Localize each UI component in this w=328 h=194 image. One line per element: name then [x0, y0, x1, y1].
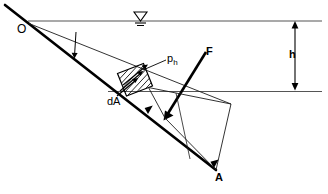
diagram-canvas [0, 0, 328, 194]
pressure-prism-outline [149, 88, 232, 171]
prism-arrowhead-upper [145, 105, 153, 114]
label-force: F [206, 46, 213, 57]
depth-arrowhead-top [292, 21, 299, 29]
pressure-arrow-near-origin [72, 32, 78, 59]
hydrostatic-pressure-diagram: O ph dA F A h [0, 0, 328, 194]
label-pressure: ph [167, 53, 178, 67]
label-origin: O [17, 23, 26, 35]
water-level-symbol-icon [134, 12, 147, 26]
prism-arrowheads [145, 105, 219, 168]
label-element-area: dA [107, 96, 120, 107]
label-pressure-subscript: h [173, 58, 177, 67]
pressure-prism-divider [176, 93, 190, 159]
depth-arrowhead-bottom [292, 83, 299, 91]
label-depth: h [289, 49, 296, 60]
label-point-a: A [215, 172, 223, 183]
